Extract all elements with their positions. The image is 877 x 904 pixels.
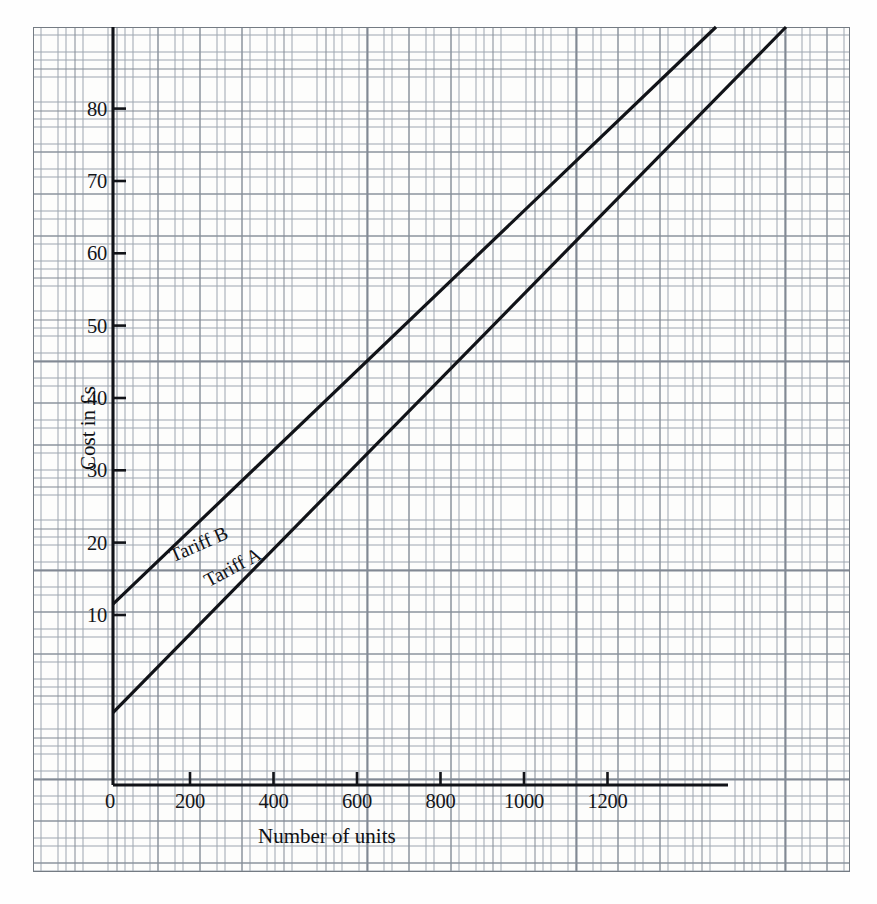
y-axis-title: Cost in £s [76, 386, 101, 470]
x-tick-label-0: 0 [105, 790, 115, 813]
x-axis-ticks [190, 772, 608, 785]
series-line-tariff-b [113, 27, 716, 604]
y-tick-label-50: 50 [65, 314, 107, 337]
plot-area [0, 0, 877, 904]
x-tick-label-1000: 1000 [504, 790, 544, 813]
x-axis-title: Number of units [258, 824, 396, 849]
x-tick-label-1200: 1200 [587, 790, 627, 813]
y-tick-label-70: 70 [65, 170, 107, 193]
series-line-tariff-a [113, 27, 786, 713]
chart-page: 80 70 60 50 40 30 20 10 0 200 400 600 80… [0, 0, 877, 904]
x-tick-label-400: 400 [258, 790, 288, 813]
y-tick-label-80: 80 [65, 97, 107, 120]
y-tick-label-20: 20 [65, 531, 107, 554]
y-tick-label-10: 10 [65, 604, 107, 627]
x-tick-label-200: 200 [175, 790, 205, 813]
y-tick-label-60: 60 [65, 242, 107, 265]
x-tick-label-800: 800 [425, 790, 455, 813]
y-axis-ticks [113, 109, 126, 615]
x-tick-label-600: 600 [342, 790, 372, 813]
